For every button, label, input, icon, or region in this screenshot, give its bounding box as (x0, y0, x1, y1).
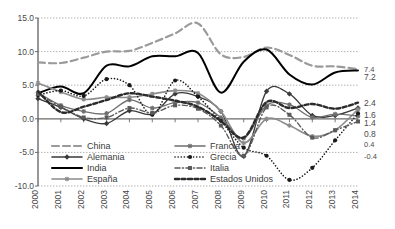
data-point-marker (264, 117, 269, 122)
legend-item-espana[interactable]: España (52, 174, 118, 184)
data-point-marker (265, 105, 269, 109)
legend-item-china[interactable]: China (52, 141, 111, 151)
y-tick-label: 10.0 (17, 47, 34, 57)
legend-item-india[interactable]: India (52, 163, 107, 173)
data-point-marker (219, 124, 223, 128)
x-axis-tick-labels: 2000200120022003200420052006200720082009… (30, 190, 360, 209)
data-point-marker (333, 128, 337, 132)
data-point-marker (242, 154, 246, 158)
data-point-marker (241, 141, 246, 146)
data-point-marker (333, 138, 337, 142)
data-point-marker (356, 111, 360, 115)
x-tick-label: 2008 (213, 190, 223, 209)
right-end-value-labels: 7.47.22.41.61.40.80.4-0.4 (364, 65, 377, 161)
data-point-marker (104, 77, 108, 81)
data-point-marker (105, 115, 109, 119)
legend-label: Grecia (210, 152, 237, 162)
legend-label: Alemania (87, 152, 125, 162)
data-point-marker (150, 106, 155, 111)
series-end-value-label: 7.2 (364, 72, 376, 82)
data-point-marker (59, 105, 63, 109)
data-point-marker (127, 83, 131, 87)
data-point-marker (127, 106, 131, 110)
x-tick-label: 2006 (167, 190, 177, 209)
x-tick-label: 2007 (190, 190, 200, 209)
series-end-value-label: -0.4 (364, 152, 377, 161)
series-end-value-label: 2.4 (364, 98, 376, 108)
data-point-marker (333, 112, 338, 117)
x-tick-label: 2003 (99, 190, 109, 209)
data-point-marker (82, 115, 86, 119)
chart-legend: ChinaAlemaniaIndiaEspañaFranciaGreciaIta… (52, 141, 274, 184)
data-point-marker (242, 146, 246, 150)
legend-label: India (87, 163, 107, 173)
series-china (38, 23, 358, 69)
legend-item-italia[interactable]: Italia (175, 163, 229, 173)
legend-item-francia[interactable]: Francia (175, 141, 240, 151)
y-tick-label: 0.0 (22, 114, 34, 124)
data-point-marker (287, 178, 291, 182)
x-tick-label: 2002 (76, 190, 86, 209)
y-tick-label: -5.0 (19, 147, 34, 157)
x-tick-label: 2011 (281, 190, 291, 209)
data-point-marker (127, 98, 132, 103)
x-tick-label: 2012 (304, 190, 314, 209)
legend-label: España (87, 174, 118, 184)
line-chart: 15.010.05.00.0-5.0-10.0 2000200120022003… (0, 0, 395, 229)
y-tick-label: -10.0 (15, 181, 35, 191)
data-point-marker (310, 136, 314, 140)
data-point-marker (104, 121, 109, 126)
data-point-marker (188, 144, 193, 149)
x-tick-label: 2014 (350, 190, 360, 209)
data-point-marker (150, 111, 154, 115)
legend-label: Francia (210, 141, 240, 151)
data-point-marker (36, 81, 41, 86)
legend-label: China (87, 141, 111, 151)
series-end-value-label: 1.4 (364, 118, 376, 128)
data-point-marker (264, 154, 268, 158)
x-tick-label: 2009 (236, 190, 246, 209)
x-tick-label: 2010 (259, 190, 269, 209)
legend-label: Italia (210, 163, 229, 173)
data-point-marker (356, 107, 361, 112)
data-point-marker (173, 88, 178, 93)
data-point-marker (219, 109, 224, 114)
x-tick-label: 2005 (144, 190, 154, 209)
data-point-marker (310, 115, 315, 120)
data-point-marker (64, 154, 69, 159)
data-series-group (35, 23, 360, 182)
data-point-marker (310, 166, 314, 170)
x-tick-label: 2001 (53, 190, 63, 209)
data-point-marker (356, 119, 360, 123)
series-end-value-label: 0.4 (364, 140, 374, 149)
data-point-marker (81, 109, 86, 114)
legend-item-grecia[interactable]: Grecia (175, 152, 237, 162)
data-point-marker (65, 177, 70, 182)
series-end-value-label: 0.8 (364, 129, 376, 139)
data-point-marker (173, 78, 177, 82)
data-point-marker (104, 111, 109, 116)
data-point-marker (188, 166, 192, 170)
data-point-marker (59, 88, 63, 92)
data-point-marker (188, 155, 192, 159)
data-point-marker (82, 94, 86, 98)
y-tick-label: 15.0 (17, 13, 34, 23)
data-point-marker (196, 100, 201, 105)
data-point-marker (287, 123, 292, 128)
data-point-marker (287, 113, 291, 117)
data-point-marker (196, 95, 200, 99)
data-point-marker (173, 103, 177, 107)
data-point-marker (287, 102, 292, 107)
y-axis-tick-labels: 15.010.05.00.0-5.0-10.0 (15, 13, 38, 191)
series-line (38, 23, 358, 69)
legend-label: Estados Unidos (210, 174, 274, 184)
legend-item-alemania[interactable]: Alemania (52, 152, 125, 162)
y-tick-label: 5.0 (22, 80, 34, 90)
x-tick-label: 2000 (30, 190, 40, 209)
x-tick-label: 2013 (327, 190, 337, 209)
legend-item-estados-unidos[interactable]: Estados Unidos (175, 174, 274, 184)
chart-container: 15.010.05.00.0-5.0-10.0 2000200120022003… (0, 0, 395, 229)
x-tick-label: 2004 (121, 190, 131, 209)
